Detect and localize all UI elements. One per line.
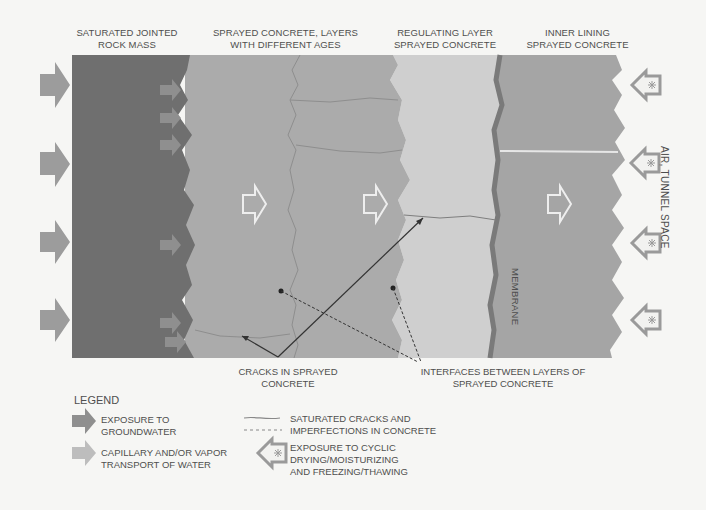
cyclic-exposure-icon bbox=[258, 439, 286, 467]
annotation-line: INTERFACES BETWEEN LAYERS OF bbox=[408, 366, 598, 378]
saturated-crack-line-icon bbox=[244, 417, 280, 418]
arrow-icon bbox=[40, 220, 70, 264]
arrow-icon bbox=[40, 62, 70, 108]
arrow-icon bbox=[40, 298, 70, 342]
rock-mass-layer bbox=[72, 55, 195, 358]
annotation-line: SPRAYED CONCRETE bbox=[408, 378, 598, 390]
cracks-annotation: CRACKS IN SPRAYED CONCRETE bbox=[228, 366, 348, 390]
legend-line: SATURATED CRACKS AND bbox=[290, 413, 436, 425]
legend-cracks: SATURATED CRACKS AND IMPERFECTIONS IN CO… bbox=[290, 413, 436, 437]
cyclic-exposure-arrows bbox=[631, 71, 660, 334]
legend-capillary: CAPILLARY AND/OR VAPOR TRANSPORT OF WATE… bbox=[101, 447, 227, 471]
legend-line: IMPERFECTIONS IN CONCRETE bbox=[290, 425, 436, 437]
air-tunnel-space-label: AIR, TUNNEL SPACE bbox=[659, 146, 670, 249]
legend-line: GROUNDWATER bbox=[101, 426, 176, 438]
legend-line: DRYING/MOISTURIZING bbox=[290, 454, 408, 466]
legend-line: EXPOSURE TO bbox=[101, 414, 176, 426]
arrow-icon bbox=[40, 142, 70, 187]
membrane-label: MEMBRANE bbox=[510, 268, 521, 325]
legend-cyclic: EXPOSURE TO CYCLIC DRYING/MOISTURIZING A… bbox=[290, 442, 408, 478]
groundwater-arrows bbox=[40, 62, 70, 342]
legend-line: TRANSPORT OF WATER bbox=[101, 459, 227, 471]
interfaces-annotation: INTERFACES BETWEEN LAYERS OF SPRAYED CON… bbox=[408, 366, 598, 390]
annotation-line: CRACKS IN SPRAYED bbox=[228, 366, 348, 378]
capillary-arrow-icon bbox=[72, 440, 96, 466]
legend-groundwater: EXPOSURE TO GROUNDWATER bbox=[101, 414, 176, 438]
annotation-line: CONCRETE bbox=[228, 378, 348, 390]
groundwater-arrow-icon bbox=[72, 408, 96, 434]
legend-title: LEGEND bbox=[74, 394, 119, 406]
legend-line: EXPOSURE TO CYCLIC bbox=[290, 442, 408, 454]
regulating-layer bbox=[390, 55, 502, 358]
legend-line: AND FREEZING/THAWING bbox=[290, 466, 408, 478]
legend-line: CAPILLARY AND/OR VAPOR bbox=[101, 447, 227, 459]
